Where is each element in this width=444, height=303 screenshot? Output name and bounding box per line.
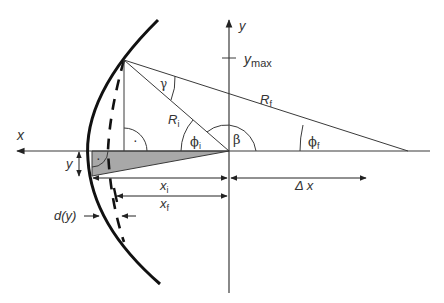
ray-r-i <box>124 60 229 151</box>
beta-label: β <box>233 132 241 147</box>
lens-geometry-diagram: x y ymax γ Ri Rf ϕi β ϕf · · y xi xf Δ x… <box>0 0 444 303</box>
y-axis-label: y <box>238 18 247 33</box>
gamma-label: γ <box>160 77 167 91</box>
right-angle-dot-triangle: · <box>96 150 101 166</box>
r-f-label: Rf <box>260 92 272 109</box>
x-f-label: xf <box>159 196 170 213</box>
phi-i-label: ϕi <box>190 134 201 151</box>
x-axis-label: x <box>16 127 25 143</box>
phi-f-label: ϕf <box>308 134 320 151</box>
ymax-label: ymax <box>243 51 272 69</box>
x-i-label: xi <box>159 178 169 195</box>
shaded-triangle <box>92 151 229 176</box>
gamma-arc <box>171 76 175 100</box>
right-angle-dot-apex: · <box>133 132 138 148</box>
d-y-label: d(y) <box>54 208 76 223</box>
phi-f-arc <box>300 125 303 151</box>
r-i-label: Ri <box>168 112 179 129</box>
delta-x-label: Δ x <box>294 178 314 193</box>
y-dimension-label: y <box>65 156 74 171</box>
